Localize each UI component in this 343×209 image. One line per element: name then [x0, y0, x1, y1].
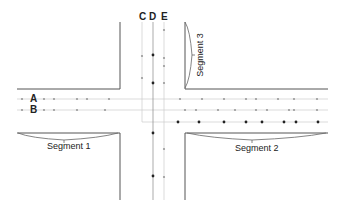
detector-point: [261, 121, 264, 124]
detector-point: [255, 109, 257, 111]
detector-point: [21, 98, 23, 100]
detector-point: [163, 65, 165, 67]
detector-point: [245, 98, 247, 100]
detector-point: [293, 98, 295, 100]
detector-point: [163, 57, 165, 59]
segment2-label: Segment 2: [235, 143, 279, 153]
detector-point: [86, 98, 88, 100]
detector-point: [234, 109, 236, 111]
detector-point: [108, 98, 110, 100]
lane-lines: [17, 22, 328, 200]
detector-point: [177, 121, 180, 124]
detector-point: [152, 54, 155, 57]
detector-point: [277, 98, 279, 100]
detector-point: [76, 98, 78, 100]
intersection-diagram: [0, 0, 343, 209]
detector-point: [295, 121, 298, 124]
detector-point: [198, 121, 201, 124]
detector-point: [21, 109, 23, 111]
segment1-brace: [18, 133, 118, 140]
detector-point: [163, 148, 165, 150]
detector-point: [223, 98, 225, 100]
detector-point: [317, 121, 320, 124]
detector-point: [152, 175, 155, 178]
lane-label-e: E: [161, 11, 168, 22]
detector-point: [43, 98, 45, 100]
detector-point: [283, 121, 286, 124]
detector-point: [195, 109, 197, 111]
detector-point: [43, 109, 45, 111]
lane-label-a: A: [30, 93, 37, 104]
detector-point: [141, 77, 143, 79]
detector-point: [316, 109, 318, 111]
detector-point: [223, 121, 226, 124]
detector-point: [163, 176, 165, 178]
lane-label-d: D: [149, 11, 156, 22]
detector-point: [53, 109, 55, 111]
detector-point: [316, 98, 318, 100]
lane-label-b: B: [30, 104, 37, 115]
segment-braces: [18, 22, 326, 143]
detector-point: [288, 109, 290, 111]
curb-top-right: [185, 22, 328, 89]
segment1-label: Segment 1: [47, 141, 91, 151]
detector-point: [152, 132, 155, 135]
curb-top-left: [17, 22, 120, 89]
segment2-brace: [187, 133, 326, 140]
detector-points: [21, 29, 320, 178]
detector-point: [152, 82, 155, 85]
detector-point: [53, 98, 55, 100]
segment3-label: Segment 3: [195, 33, 205, 77]
detector-point: [104, 109, 106, 111]
curbs: [17, 22, 328, 200]
detector-point: [76, 109, 78, 111]
detector-point: [184, 109, 186, 111]
detector-point: [266, 109, 268, 111]
detector-point: [217, 109, 219, 111]
detector-point: [163, 29, 165, 31]
segment3-brace: [185, 22, 192, 88]
detector-point: [141, 55, 143, 57]
lane-label-c: C: [139, 11, 146, 22]
detector-point: [201, 98, 203, 100]
detector-point: [163, 82, 165, 84]
detector-point: [179, 98, 181, 100]
detector-point: [293, 109, 295, 111]
detector-point: [255, 98, 257, 100]
detector-point: [245, 121, 248, 124]
